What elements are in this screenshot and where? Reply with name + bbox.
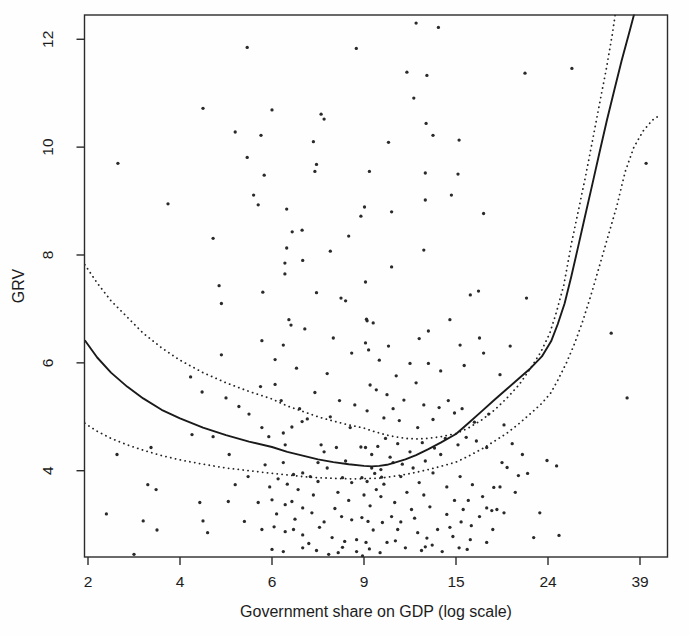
data-point bbox=[387, 344, 390, 347]
x-tick-label: 15 bbox=[447, 573, 464, 590]
data-point bbox=[378, 551, 381, 554]
data-point bbox=[467, 499, 470, 502]
data-point bbox=[459, 520, 462, 523]
data-point bbox=[360, 516, 363, 519]
data-point bbox=[267, 435, 270, 438]
data-point bbox=[376, 445, 379, 448]
x-tick-label: 4 bbox=[176, 573, 185, 590]
data-point bbox=[460, 407, 463, 410]
data-point bbox=[252, 193, 255, 196]
data-point bbox=[155, 528, 158, 531]
data-point bbox=[329, 250, 332, 253]
data-point bbox=[336, 491, 339, 494]
data-point bbox=[290, 425, 293, 428]
data-point bbox=[312, 140, 315, 143]
data-point bbox=[301, 471, 304, 474]
data-point bbox=[416, 531, 419, 534]
data-point bbox=[319, 113, 322, 116]
data-point bbox=[517, 474, 520, 477]
data-point bbox=[395, 374, 398, 377]
data-point bbox=[382, 416, 385, 419]
data-point bbox=[402, 398, 405, 401]
data-point bbox=[437, 26, 440, 29]
data-point bbox=[495, 508, 498, 511]
data-point bbox=[445, 485, 448, 488]
data-point bbox=[457, 138, 460, 141]
data-point bbox=[243, 520, 246, 523]
data-point bbox=[326, 372, 329, 375]
data-point bbox=[270, 498, 273, 501]
data-point bbox=[445, 513, 448, 516]
data-point bbox=[451, 535, 454, 538]
data-point bbox=[424, 171, 427, 174]
data-point bbox=[431, 543, 434, 546]
data-point bbox=[414, 381, 417, 384]
y-axis-title: GRV bbox=[10, 268, 27, 303]
data-point bbox=[295, 367, 298, 370]
data-point bbox=[384, 437, 387, 440]
data-point bbox=[296, 488, 299, 491]
data-point bbox=[287, 318, 290, 321]
x-tick-label: 9 bbox=[360, 573, 369, 590]
data-point bbox=[282, 461, 285, 464]
data-point bbox=[347, 499, 350, 502]
data-point bbox=[234, 483, 237, 486]
data-point bbox=[365, 409, 368, 412]
data-point bbox=[502, 511, 505, 514]
data-point bbox=[307, 542, 310, 545]
plot-border bbox=[85, 15, 668, 557]
x-tick-label: 24 bbox=[539, 573, 557, 590]
data-point bbox=[261, 291, 264, 294]
data-point bbox=[300, 229, 303, 232]
data-point bbox=[368, 170, 371, 173]
data-point bbox=[490, 509, 493, 512]
data-point bbox=[368, 383, 371, 386]
data-point bbox=[393, 501, 396, 504]
data-point bbox=[401, 463, 404, 466]
data-point bbox=[227, 500, 230, 503]
data-point bbox=[456, 443, 459, 446]
data-point bbox=[538, 511, 541, 514]
data-point bbox=[408, 362, 411, 365]
data-point bbox=[319, 443, 322, 446]
data-point bbox=[625, 396, 628, 399]
data-point bbox=[422, 248, 425, 251]
data-point bbox=[526, 472, 529, 475]
data-point bbox=[427, 362, 430, 365]
x-axis-title: Government share on GDP (log scale) bbox=[240, 603, 512, 620]
data-point bbox=[350, 518, 353, 521]
data-point bbox=[340, 515, 343, 518]
data-point bbox=[276, 477, 279, 480]
data-point bbox=[481, 495, 484, 498]
data-point bbox=[368, 547, 371, 550]
data-point bbox=[347, 234, 350, 237]
data-point bbox=[259, 385, 262, 388]
data-point bbox=[414, 21, 417, 24]
data-point bbox=[318, 526, 321, 529]
data-point bbox=[315, 549, 318, 552]
data-point bbox=[370, 453, 373, 456]
data-point bbox=[316, 480, 319, 483]
data-point bbox=[313, 170, 316, 173]
data-point bbox=[270, 548, 273, 551]
data-point bbox=[284, 443, 287, 446]
data-point bbox=[115, 453, 118, 456]
data-point bbox=[416, 426, 419, 429]
data-point bbox=[425, 74, 428, 77]
data-point bbox=[378, 359, 381, 362]
data-point bbox=[450, 193, 453, 196]
data-point bbox=[387, 141, 390, 144]
data-point bbox=[322, 520, 325, 523]
data-point bbox=[555, 464, 558, 467]
data-point bbox=[313, 391, 316, 394]
data-point bbox=[502, 423, 505, 426]
scatter-plot: 24691524394681012 Government share on GD… bbox=[0, 0, 689, 636]
data-point bbox=[338, 399, 341, 402]
data-point bbox=[246, 475, 249, 478]
data-point bbox=[301, 546, 304, 549]
data-point bbox=[285, 246, 288, 249]
data-point bbox=[353, 403, 356, 406]
data-point bbox=[485, 541, 488, 544]
data-point bbox=[372, 321, 375, 324]
data-point bbox=[431, 134, 434, 137]
